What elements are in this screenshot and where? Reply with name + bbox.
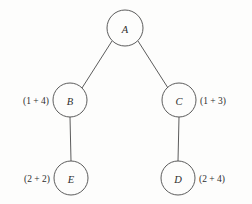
node-e-label: E (67, 174, 75, 185)
edge-c-d (178, 117, 179, 161)
edge-a-c (138, 41, 168, 88)
node-d-cost-label: (2 + 4) (199, 174, 225, 185)
node-b-cost-label: (1 + 4) (23, 96, 49, 107)
edge-b-e (70, 117, 71, 161)
tree-diagram: A B (1 + 4) C (1 + 3) E (2 + 2) D (2 + 4… (0, 0, 252, 204)
tree-diagram-canvas: A B (1 + 4) C (1 + 3) E (2 + 2) D (2 + 4… (0, 0, 252, 204)
node-a-label: A (121, 24, 129, 35)
node-d-label: D (173, 174, 182, 185)
node-c-cost-label: (1 + 3) (200, 96, 226, 107)
edge-a-b (82, 41, 112, 88)
node-b-label: B (67, 96, 74, 107)
node-c-label: C (175, 96, 183, 107)
node-e-cost-label: (2 + 2) (24, 174, 50, 185)
